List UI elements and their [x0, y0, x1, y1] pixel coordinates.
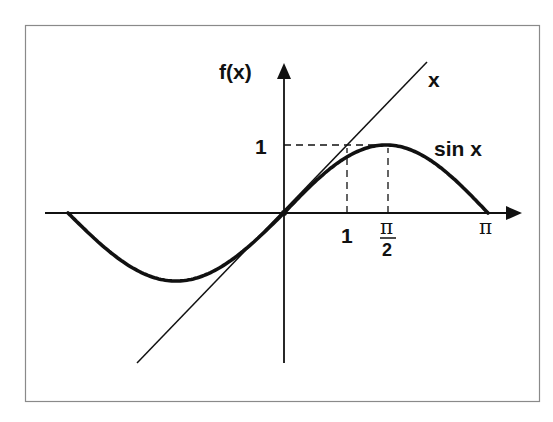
y-tick-label-1: 1	[255, 135, 267, 158]
sine-vs-x-diagram: f(x) x sin x 1 1 π 2 π	[0, 0, 553, 422]
x-tick-label-pi: π	[479, 215, 492, 239]
line-label: x	[428, 68, 440, 91]
curve-label: sin x	[434, 137, 482, 160]
x-tick-label-half-pi-numerator: π	[380, 215, 393, 239]
y-axis-label: f(x)	[219, 60, 252, 83]
origin-point	[281, 210, 287, 216]
x-tick-label-1: 1	[341, 224, 353, 247]
x-tick-label-half-pi-denominator: 2	[382, 240, 392, 260]
